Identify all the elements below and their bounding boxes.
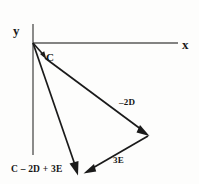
x-axis-label: x — [182, 38, 189, 51]
vector-label-c: C — [46, 52, 54, 63]
vector-label-3e: 3E — [113, 156, 124, 165]
vector-diagram-canvas — [0, 0, 199, 184]
y-axis-label: y — [13, 24, 20, 37]
vector-resultant-arrowhead — [70, 161, 79, 176]
vector-3e-arrowhead — [84, 164, 97, 174]
vector-diagram-figure: y x C –2D 3E C – 2D + 3E — [0, 0, 199, 184]
vector-resultant — [33, 43, 79, 176]
vector-label-neg-2d: –2D — [119, 98, 135, 107]
vector-label-resultant: C – 2D + 3E — [11, 165, 62, 175]
